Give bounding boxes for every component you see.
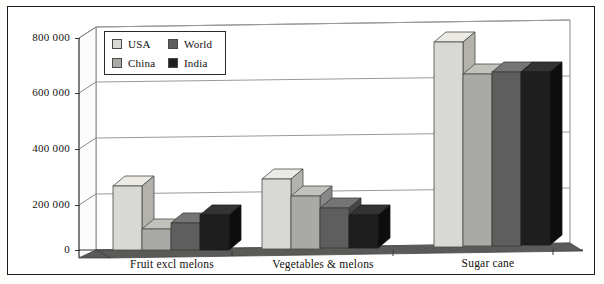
y-tick-label-600000: 600 000 (8, 86, 70, 98)
y-tick-label-0: 0 (8, 243, 70, 255)
y-tick-mark-600000 (75, 93, 80, 94)
legend-swatch-usa-icon (112, 39, 122, 49)
legend-entry-world[interactable]: World (168, 36, 212, 52)
bar-india-sugar-cane[interactable] (521, 62, 562, 245)
plot-area: 800 000 600 000 400 000 200 000 0 Fruit … (0, 0, 604, 284)
y-tick-mark-800000 (75, 38, 80, 39)
legend-entry-india[interactable]: India (168, 55, 208, 71)
chart-legend: USA China World India (104, 31, 226, 75)
x-tick-label-fruit-excl-melons: Fruit excl melons (92, 258, 252, 270)
left-depth-wall (79, 27, 96, 258)
x-tick-label-sugar-cane: Sugar cane (408, 257, 568, 269)
legend-label-india: India (184, 57, 208, 69)
y-tick-mark-400000 (75, 149, 80, 150)
bar-india-fruit[interactable] (200, 205, 241, 250)
legend-entry-usa[interactable]: USA (112, 36, 151, 52)
y-tick-label-200000: 200 000 (8, 198, 70, 210)
bar-group-sugar-cane (434, 32, 562, 247)
x-tick-label-vegetables-melons: Vegetables & melons (233, 258, 413, 270)
y-tick-mark-0 (75, 250, 80, 251)
y-tick-label-800000: 800 000 (8, 31, 70, 43)
bar-india-vegetables[interactable] (349, 205, 390, 248)
legend-entry-china[interactable]: China (112, 55, 155, 71)
y-tick-mark-200000 (75, 205, 80, 206)
legend-label-world: World (184, 38, 212, 50)
legend-swatch-china-icon (112, 58, 122, 68)
y-tick-label-400000: 400 000 (8, 142, 70, 154)
legend-label-usa: USA (128, 38, 151, 50)
legend-swatch-world-icon (168, 39, 178, 49)
chart-canvas (0, 0, 604, 284)
legend-label-china: China (128, 57, 155, 69)
chart-figure: 800 000 600 000 400 000 200 000 0 Fruit … (0, 0, 604, 284)
legend-swatch-india-icon (168, 58, 178, 68)
